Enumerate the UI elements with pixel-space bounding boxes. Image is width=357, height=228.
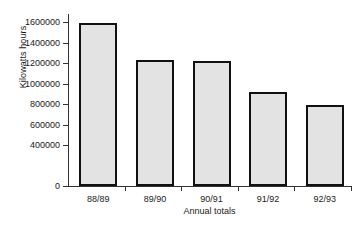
- y-axis-tick: [63, 84, 68, 85]
- y-axis-tick: [63, 125, 68, 126]
- x-axis-tick: [351, 186, 352, 191]
- y-axis-tick-label: 1400000: [25, 38, 60, 48]
- bar: [306, 105, 344, 186]
- x-axis-tick-label: 90/91: [200, 194, 223, 204]
- bar: [136, 60, 174, 186]
- x-axis-tick-label: 89/90: [144, 194, 167, 204]
- x-axis-tick-label: 91/92: [257, 194, 280, 204]
- y-axis-tick: [63, 43, 68, 44]
- bar: [79, 23, 117, 186]
- plot-area: 0400000600000800000100000012000001400000…: [68, 14, 351, 186]
- y-axis-tick-label: 0: [55, 181, 60, 191]
- y-axis-tick: [63, 104, 68, 105]
- bar: [249, 92, 287, 186]
- x-axis-tick: [238, 186, 239, 191]
- y-axis-tick-label: 600000: [30, 120, 60, 130]
- y-axis-tick: [63, 22, 68, 23]
- x-axis-tick-label: 88/89: [87, 194, 110, 204]
- x-axis-tick-label: 92/93: [313, 194, 336, 204]
- y-axis-tick: [63, 63, 68, 64]
- y-axis-tick: [63, 186, 68, 187]
- y-axis-tick-label: 1000000: [25, 79, 60, 89]
- x-axis-line: [68, 186, 351, 187]
- y-axis-tick-label: 800000: [30, 99, 60, 109]
- y-axis-tick-label: 400000: [30, 140, 60, 150]
- y-axis-tick-label: 1600000: [25, 17, 60, 27]
- y-axis-line: [68, 14, 69, 186]
- x-axis-tick: [181, 186, 182, 191]
- y-axis-tick-label: 1200000: [25, 58, 60, 68]
- x-axis-title: Annual totals: [68, 206, 351, 216]
- x-axis-tick: [294, 186, 295, 191]
- y-axis-tick: [63, 145, 68, 146]
- x-axis-tick: [125, 186, 126, 191]
- bar: [193, 61, 231, 186]
- bar-chart: Kilowatts hours 040000060000080000010000…: [0, 0, 357, 228]
